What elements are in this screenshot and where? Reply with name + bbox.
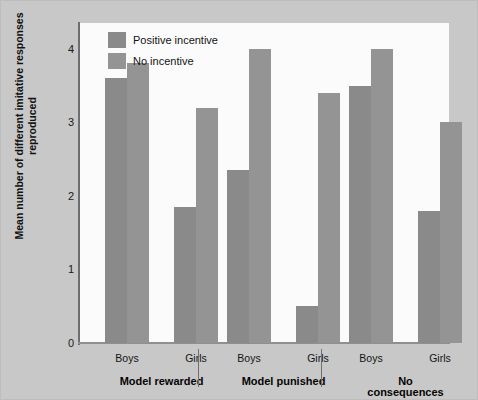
x-sub-label: Girls	[429, 353, 451, 364]
x-sub-label: Girls	[307, 353, 329, 364]
x-sub-label: Boys	[237, 353, 260, 364]
y-axis-title: Mean number of different imitative respo…	[13, 11, 39, 241]
y-tick-label: 1	[4, 264, 74, 275]
bar	[196, 108, 218, 343]
x-sub-label: Boys	[115, 353, 138, 364]
y-axis-line	[78, 22, 80, 345]
bar	[127, 63, 149, 343]
y-tick-label: 0	[4, 338, 74, 349]
legend-item: No incentive	[108, 53, 218, 69]
bar	[440, 122, 462, 343]
bar	[371, 49, 393, 343]
bar	[105, 78, 127, 343]
legend-label: Positive incentive	[133, 35, 218, 46]
legend-label: No incentive	[133, 56, 194, 67]
legend-swatch-icon	[108, 53, 126, 69]
bar	[227, 170, 249, 343]
bar	[349, 86, 371, 343]
group-separator	[321, 349, 322, 387]
bar	[318, 93, 340, 343]
x-group-label: Model punished	[242, 376, 326, 387]
chart-legend: Positive incentiveNo incentive	[108, 32, 218, 74]
bar	[174, 207, 196, 343]
x-group-label: Model rewarded	[120, 376, 204, 387]
bar-chart-figure: 01234 Mean number of different imitative…	[0, 0, 478, 400]
x-sub-label: Girls	[185, 353, 207, 364]
x-sub-label: Boys	[359, 353, 382, 364]
group-separator	[198, 349, 199, 387]
bar	[418, 211, 440, 343]
bar	[249, 49, 271, 343]
bar	[296, 306, 318, 343]
legend-swatch-icon	[108, 32, 126, 48]
x-group-label: No consequences	[367, 376, 443, 398]
legend-item: Positive incentive	[108, 32, 218, 48]
